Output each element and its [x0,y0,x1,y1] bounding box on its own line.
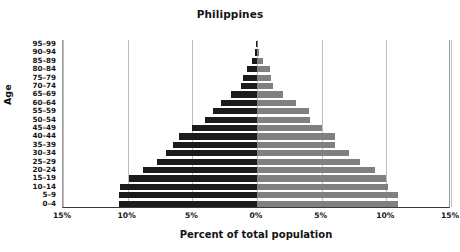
bar-female [257,142,335,148]
bar-male [143,167,257,173]
bar-row [63,174,449,182]
bar-male [192,125,257,131]
bar-row [63,191,449,199]
bar-female [257,41,258,47]
bar-row [63,116,449,124]
bar-male [157,159,257,165]
y-tick-label: 50–54 [32,116,56,124]
bar-row [63,40,449,48]
x-tick-label: 10% [118,211,136,220]
y-tick-label: 15–19 [32,174,56,182]
bar-row [63,149,449,157]
y-tick-label: 0–4 [42,200,56,208]
bar-female [257,133,335,139]
population-pyramid-chart: Philippines Age 0–45–910–1415–1920–2425–… [0,0,460,252]
x-tick-label: 5% [185,211,198,220]
bar-row [63,107,449,115]
bar-row [63,82,449,90]
x-tick-label: 0% [250,211,263,220]
y-tick-label: 90–94 [32,48,56,56]
bar-female [257,201,398,207]
bar-row [63,74,449,82]
bar-row [63,200,449,208]
bar-female [257,192,398,198]
y-tick-label: 60–64 [32,99,56,107]
bar-male [247,66,257,72]
bar-male [166,150,257,156]
bar-male [173,142,257,148]
bar-row [63,132,449,140]
y-tick-label: 30–34 [32,149,56,157]
bar-female [257,83,273,89]
bar-male [241,83,257,89]
y-tick-label: 95–99 [32,40,56,48]
bar-male [205,117,257,123]
x-tick-label: 15% [53,211,71,220]
chart-title: Philippines [0,8,460,20]
bar-male [213,108,257,114]
bar-male [129,175,257,181]
plot-area [62,40,450,208]
bar-female [257,184,388,190]
bar-female [257,108,309,114]
bar-row [63,158,449,166]
bar-male [119,201,257,207]
bar-female [257,159,360,165]
y-tick-label: 80–84 [32,65,56,73]
x-tick-label: 10% [376,211,394,220]
bar-row [63,99,449,107]
bar-female [257,167,375,173]
x-tick-label: 15% [441,211,459,220]
bar-rows [63,40,449,207]
bar-row [63,141,449,149]
bar-male [221,100,257,106]
y-tick-label: 25–29 [32,158,56,166]
gridline-right-15 [451,40,452,207]
bar-female [257,66,270,72]
y-tick-label: 40–44 [32,132,56,140]
y-tick-label: 75–79 [32,74,56,82]
bar-female [257,117,310,123]
y-tick-label: 10–14 [32,183,56,191]
bar-female [257,58,263,64]
bar-row [63,65,449,73]
bar-female [257,49,259,55]
bar-row [63,183,449,191]
bar-row [63,90,449,98]
y-tick-label: 45–49 [32,124,56,132]
y-tick-label: 35–39 [32,141,56,149]
bar-female [257,91,283,97]
bar-female [257,100,296,106]
bar-row [63,48,449,56]
bar-row [63,166,449,174]
bar-female [257,175,386,181]
bar-female [257,75,271,81]
bar-male [231,91,257,97]
y-tick-label: 55–59 [32,107,56,115]
bar-row [63,57,449,65]
bar-male [119,192,257,198]
x-axis-label: Percent of total population [62,229,450,240]
x-axis-tick-labels: 15%10%5%0%5%10%15% [0,211,460,225]
y-tick-label: 85–89 [32,57,56,65]
y-tick-label: 70–74 [32,82,56,90]
y-tick-label: 20–24 [32,166,56,174]
y-tick-label: 65–69 [32,90,56,98]
bar-row [63,124,449,132]
bar-male [120,184,257,190]
bar-female [257,150,349,156]
bar-male [243,75,257,81]
bar-female [257,125,322,131]
x-tick-label: 5% [314,211,327,220]
y-axis-tick-labels: 0–45–910–1415–1920–2425–2930–3435–3940–4… [0,40,60,208]
bar-male [179,133,257,139]
y-tick-label: 5–9 [42,191,56,199]
